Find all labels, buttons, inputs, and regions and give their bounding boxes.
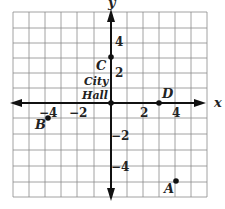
y-tick-label: 4	[115, 35, 123, 49]
city-hall-label-line1: City	[84, 75, 110, 88]
point-label: C	[96, 58, 107, 73]
point-a: A	[162, 178, 179, 196]
city-hall-label-line2: Hall	[81, 89, 108, 102]
x-axis-right-arrow-icon	[194, 99, 206, 107]
coordinate-grid-diagram: x y −4 −2 2 4 4 2 −2 −4 City Hall C D B …	[0, 0, 225, 209]
y-tick-label: 2	[115, 66, 123, 80]
y-axis-label: y	[107, 0, 117, 10]
x-tick-label: 2	[140, 106, 148, 120]
y-axis-down-arrow-icon	[107, 188, 115, 201]
y-tick-label: −2	[111, 129, 129, 143]
origin-point	[108, 100, 114, 106]
point-label: A	[162, 181, 174, 196]
x-tick-label: 4	[172, 106, 180, 120]
x-axis-left-arrow-icon	[10, 99, 22, 107]
y-tick-label: −4	[111, 160, 129, 174]
point-label: D	[161, 86, 174, 101]
y-axis-up-arrow-icon	[107, 9, 115, 22]
x-tick-label: −2	[69, 106, 87, 120]
point-b: B	[34, 115, 51, 132]
x-axis-label: x	[213, 95, 222, 110]
point-label: B	[34, 117, 46, 132]
